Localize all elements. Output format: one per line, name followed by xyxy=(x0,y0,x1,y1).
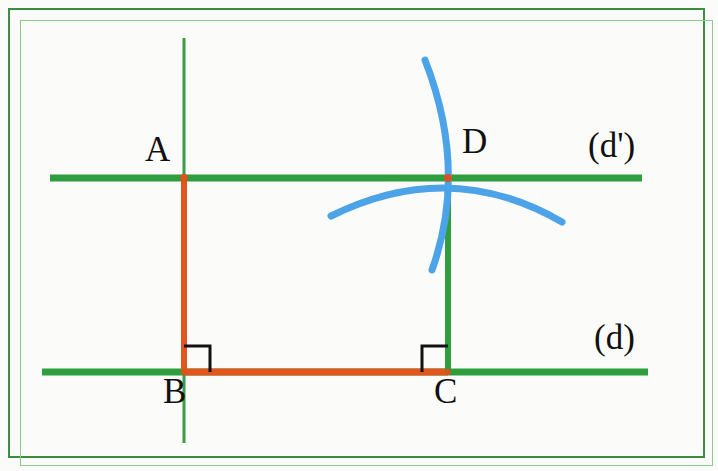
point-dot-a xyxy=(180,174,188,182)
line-label-d: (d) xyxy=(594,320,635,355)
vertical-compass-arc xyxy=(425,60,448,270)
point-label-c: C xyxy=(434,374,457,409)
geometry-figure: A B C D (d') (d) xyxy=(0,0,718,471)
point-dot-d xyxy=(444,174,452,182)
line-label-d-prime: (d') xyxy=(588,128,635,163)
right-angle-c xyxy=(422,346,448,372)
point-label-b: B xyxy=(163,374,186,409)
right-angle-b xyxy=(184,346,210,372)
point-label-d: D xyxy=(462,124,487,159)
diagram-canvas xyxy=(0,0,718,471)
point-label-a: A xyxy=(145,132,170,167)
